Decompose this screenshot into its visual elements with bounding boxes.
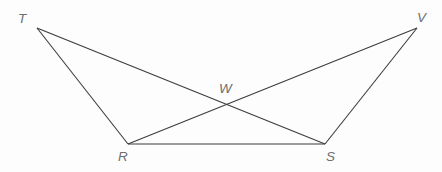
vertex-label-W: W	[219, 82, 232, 96]
segment-VS	[325, 28, 417, 144]
segment-TS	[37, 28, 325, 144]
geometry-figure: T V W R S	[0, 0, 442, 172]
segment-VR	[128, 28, 417, 144]
segment-TR	[37, 28, 128, 144]
vertex-label-S: S	[326, 150, 335, 164]
vertex-label-V: V	[417, 11, 426, 25]
vertex-label-T: T	[18, 12, 26, 26]
vertex-label-R: R	[118, 150, 128, 164]
